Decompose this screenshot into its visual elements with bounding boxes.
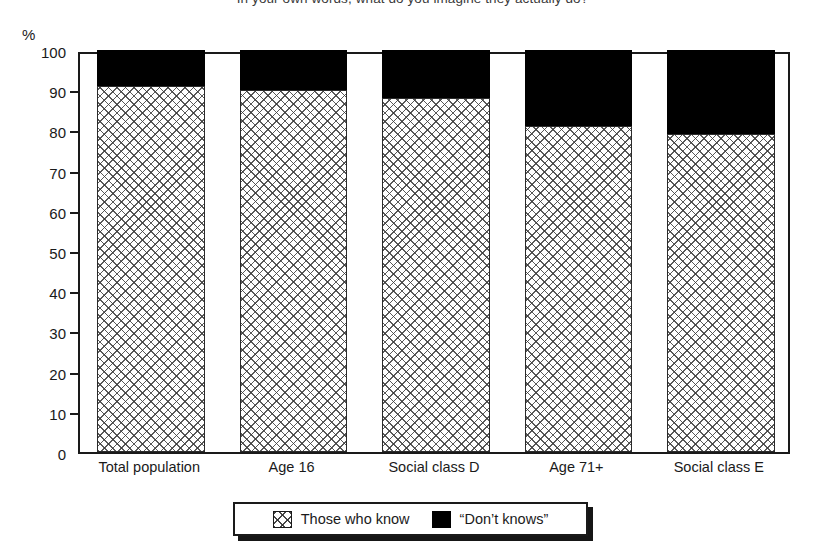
y-axis-tick-label: 0 bbox=[18, 446, 66, 463]
x-axis-tick-label: Social class D bbox=[363, 459, 505, 475]
y-axis-tick-label: 10 bbox=[18, 405, 66, 422]
y-axis-tick-label: 20 bbox=[18, 365, 66, 382]
y-axis-tick-label: 70 bbox=[18, 164, 66, 181]
bar-segment-dont-knows bbox=[97, 50, 205, 86]
plot-area bbox=[78, 52, 790, 454]
y-axis-unit-label: % bbox=[22, 26, 35, 43]
y-axis-tick-label: 30 bbox=[18, 325, 66, 342]
bar-segment-dont-knows bbox=[525, 50, 633, 126]
bar-group bbox=[97, 50, 205, 452]
bar-segment-dont-knows bbox=[240, 50, 348, 90]
x-axis-tick-label: Age 16 bbox=[220, 459, 362, 475]
bar-group bbox=[382, 50, 490, 452]
y-axis-tick-label: 80 bbox=[18, 124, 66, 141]
y-axis-tick-label: 100 bbox=[18, 44, 66, 61]
bar-segment-those-who-know bbox=[382, 98, 490, 452]
bar-segment-dont-knows bbox=[667, 50, 775, 134]
solid-black-swatch-icon bbox=[432, 511, 451, 528]
legend-label: Those who know bbox=[301, 511, 410, 527]
y-axis-tick-label: 50 bbox=[18, 245, 66, 262]
bar-group bbox=[667, 50, 775, 452]
legend-item-dont-knows: “Don’t knows” bbox=[432, 511, 549, 528]
legend-label: “Don’t knows” bbox=[460, 511, 549, 527]
crosshatch-swatch-icon bbox=[273, 511, 292, 528]
bar-segment-those-who-know bbox=[525, 126, 633, 452]
chart-legend: Those who know “Don’t knows” bbox=[233, 502, 588, 536]
y-axis-tick-label: 40 bbox=[18, 285, 66, 302]
chart-title: In your own words, what do you imagine t… bbox=[0, 0, 825, 6]
x-axis-tick-label: Social class E bbox=[648, 459, 790, 475]
bar-group bbox=[525, 50, 633, 452]
bar-segment-those-who-know bbox=[97, 86, 205, 452]
bar-segment-those-who-know bbox=[240, 90, 348, 452]
chart-screenshot: In your own words, what do you imagine t… bbox=[0, 0, 825, 560]
legend-item-those-who-know: Those who know bbox=[273, 511, 410, 528]
x-axis-tick-label: Age 71+ bbox=[505, 459, 647, 475]
y-axis-tick-label: 60 bbox=[18, 204, 66, 221]
bar-group bbox=[240, 50, 348, 452]
y-axis-tick-label: 90 bbox=[18, 84, 66, 101]
bar-segment-dont-knows bbox=[382, 50, 490, 98]
chart-title-clip: In your own words, what do you imagine t… bbox=[0, 0, 825, 9]
x-axis-tick-label: Total population bbox=[78, 459, 220, 475]
bar-segment-those-who-know bbox=[667, 134, 775, 452]
